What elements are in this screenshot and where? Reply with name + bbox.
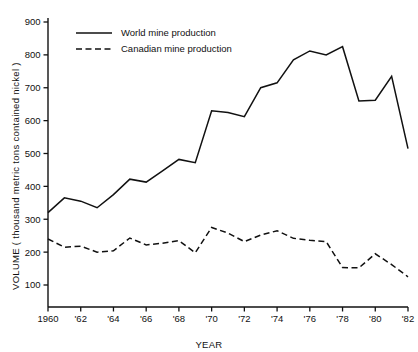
x-tick-label: '74	[271, 313, 283, 324]
x-tick-label: '66	[140, 313, 152, 324]
legend-label-1: World mine production	[121, 27, 216, 38]
legend-label-2: Canadian mine production	[121, 43, 232, 54]
y-tick-label: 300	[25, 214, 41, 225]
y-axis-tick-labels: 100200300400500600700800900	[25, 16, 41, 290]
y-axis: 100200300400500600700800900	[25, 16, 48, 307]
series-line-1	[48, 47, 408, 213]
x-tick-label: '64	[107, 313, 119, 324]
series-line-2	[48, 227, 408, 276]
x-tick-label: '78	[336, 313, 348, 324]
y-tick-label: 600	[25, 115, 41, 126]
data-series-group	[48, 47, 408, 277]
x-tick-label: '76	[304, 313, 316, 324]
y-axis-title: VOLUME ( thousand metric tons contained …	[10, 62, 21, 290]
x-tick-label: 1960	[37, 313, 58, 324]
x-tick-label: '62	[75, 313, 87, 324]
x-tick-label: '82	[402, 313, 414, 324]
y-tick-label: 700	[25, 82, 41, 93]
chart-canvas: 100200300400500600700800900 1960'62'64'6…	[0, 0, 418, 352]
x-tick-label: '80	[369, 313, 381, 324]
y-tick-label: 800	[25, 49, 41, 60]
y-tick-label: 100	[25, 279, 41, 290]
x-axis-tick-labels: 1960'62'64'66'68'70'72'74'76'78'80'82	[37, 313, 414, 324]
chart-legend: World mine productionCanadian mine produ…	[76, 27, 232, 54]
y-tick-label: 500	[25, 148, 41, 159]
x-axis-title: YEAR	[195, 339, 222, 350]
y-tick-label: 400	[25, 181, 41, 192]
x-tick-label: '68	[173, 313, 185, 324]
x-tick-label: '70	[205, 313, 217, 324]
y-tick-label: 900	[25, 16, 41, 27]
y-tick-label: 200	[25, 247, 41, 258]
line-chart: 100200300400500600700800900 1960'62'64'6…	[0, 0, 418, 352]
x-tick-label: '72	[238, 313, 250, 324]
x-axis: 1960'62'64'66'68'70'72'74'76'78'80'82	[37, 307, 414, 324]
